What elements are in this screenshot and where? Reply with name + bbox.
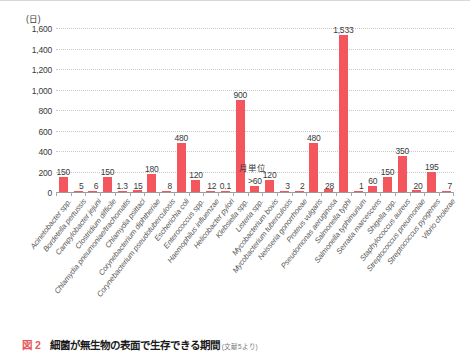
bar-value-label: 150 — [101, 167, 115, 177]
bar-column: 8 — [159, 28, 174, 192]
figure-caption-text: 細菌が無生物の表面で生存できる期間 — [50, 337, 220, 351]
bar-column: 60 — [365, 28, 380, 192]
bar-value-label: 0.1 — [220, 181, 231, 191]
bar: 480 — [177, 143, 186, 192]
bar-value-label: 15 — [133, 181, 142, 191]
figure-caption: 図 2 細菌が無生物の表面で生存できる期間 (文献5より) — [22, 337, 258, 351]
bar: 350 — [398, 156, 407, 192]
figure-number: 図 2 — [22, 337, 41, 351]
bar-value-label: 480 — [307, 133, 321, 143]
bar: 150 — [103, 177, 112, 192]
bar-column: 150 — [100, 28, 115, 192]
bar-value-label: 20 — [413, 181, 422, 191]
x-tick — [292, 192, 307, 196]
bar-column: 7 — [439, 28, 454, 192]
bar: 1,533 — [339, 35, 348, 192]
x-tick — [351, 192, 366, 196]
bar-value-label: 120 — [189, 170, 203, 180]
bar-value-label: 180 — [145, 164, 159, 174]
x-tick — [203, 192, 218, 196]
bar: 480 — [309, 143, 318, 192]
x-tick — [174, 192, 189, 196]
bar-column: 120 — [189, 28, 204, 192]
bar-value-label: 150 — [381, 167, 395, 177]
bar-value-label: 7 — [447, 181, 452, 191]
x-tick — [189, 192, 204, 196]
bar-value-label: 350 — [395, 146, 409, 156]
x-tick — [233, 192, 248, 196]
bar-value-label: 480 — [174, 133, 188, 143]
x-tick — [365, 192, 380, 196]
x-tick — [100, 192, 115, 196]
bar-value-label: >60 — [248, 176, 262, 186]
figure-caption-source: (文献5より) — [222, 341, 258, 351]
y-axis-tick-label: 200 — [38, 168, 52, 178]
bar: 150 — [59, 177, 68, 192]
bar-column: 5 — [71, 28, 86, 192]
bar-column: 195 — [424, 28, 439, 192]
bar-value-label: 2 — [300, 181, 305, 191]
bar-column: 0.1 — [218, 28, 233, 192]
chart-annotation-monthly-unit: 月単位 — [239, 161, 266, 173]
x-tick — [395, 192, 410, 196]
bar-value-label: 60 — [368, 176, 377, 186]
bar-value-label: 195 — [425, 162, 439, 172]
bar-value-label: 28 — [325, 181, 334, 191]
bar-column: 150 — [56, 28, 71, 192]
y-axis-unit-label: (日) — [26, 12, 41, 24]
bar-value-label: 150 — [57, 167, 71, 177]
x-tick — [277, 192, 292, 196]
bar-column: 12 — [203, 28, 218, 192]
x-axis-tick-marks — [56, 192, 454, 196]
x-tick — [439, 192, 454, 196]
bar-column: 6 — [85, 28, 100, 192]
y-axis-tick-label: 400 — [38, 147, 52, 157]
x-tick — [144, 192, 159, 196]
y-axis-tick-label: 0 — [47, 188, 52, 198]
y-axis-tick-label: 1,600 — [32, 24, 52, 34]
bar: 180 — [147, 174, 156, 192]
bar-column: 480 — [306, 28, 321, 192]
bar-value-label: 900 — [233, 90, 247, 100]
bar-value-label: 1.3 — [117, 181, 128, 191]
bar: 120 — [191, 180, 200, 192]
y-axis-tick-label: 1,000 — [32, 86, 52, 96]
bar-column: 20 — [410, 28, 425, 192]
bar-value-label: 6 — [94, 181, 99, 191]
x-tick — [85, 192, 100, 196]
bar: 150 — [383, 177, 392, 192]
bar: 900 — [236, 100, 245, 192]
bar-column: 1,533 — [336, 28, 351, 192]
x-tick — [336, 192, 351, 196]
bar-column: 28 — [321, 28, 336, 192]
x-tick — [321, 192, 336, 196]
bar: 195 — [427, 172, 436, 192]
x-tick — [218, 192, 233, 196]
x-tick — [262, 192, 277, 196]
x-tick — [424, 192, 439, 196]
bar-column: 350 — [395, 28, 410, 192]
bar-value-label: 5 — [79, 181, 84, 191]
bar-column: 180 — [144, 28, 159, 192]
bar: 120 — [265, 180, 274, 192]
y-axis-tick-label: 1,400 — [32, 45, 52, 55]
bar-column: 150 — [380, 28, 395, 192]
x-tick — [56, 192, 71, 196]
x-tick — [410, 192, 425, 196]
bar-column: 15 — [130, 28, 145, 192]
bar-value-label: 1 — [359, 181, 364, 191]
x-tick — [130, 192, 145, 196]
bar-column: 1 — [351, 28, 366, 192]
bar-column: 3 — [277, 28, 292, 192]
y-axis-tick-label: 800 — [38, 106, 52, 116]
x-tick — [159, 192, 174, 196]
x-tick — [380, 192, 395, 196]
y-axis-tick-label: 600 — [38, 127, 52, 137]
plot-area: 02004006008001,0001,2001,4001,600 150561… — [56, 28, 454, 192]
bar-column: 1.3 — [115, 28, 130, 192]
figure-container: (日) 02004006008001,0001,2001,4001,600 15… — [0, 0, 470, 351]
x-tick — [248, 192, 263, 196]
x-tick — [115, 192, 130, 196]
bar-column: 480 — [174, 28, 189, 192]
bar-value-label: 12 — [207, 181, 216, 191]
